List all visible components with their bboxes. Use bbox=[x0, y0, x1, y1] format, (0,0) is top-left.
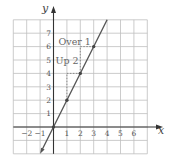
x-tick-label: 5 bbox=[118, 129, 123, 138]
data-point bbox=[52, 125, 55, 128]
data-point bbox=[65, 99, 68, 102]
data-point bbox=[79, 72, 82, 75]
x-axis-label: x bbox=[158, 124, 165, 137]
x-tick-label: 1 bbox=[65, 129, 70, 138]
y-tick-label: 4 bbox=[46, 69, 51, 78]
y-axis-label: y bbox=[41, 2, 49, 15]
x-tick-label: 3 bbox=[91, 129, 96, 138]
x-tick-label: 6 bbox=[132, 129, 137, 138]
y-axis-arrow-icon bbox=[51, 6, 56, 13]
over-1-annotation: Over 1 bbox=[59, 36, 91, 47]
y-tick-label: 3 bbox=[46, 83, 51, 92]
y-tick-label: 1 bbox=[46, 109, 51, 118]
line-arrow-icon bbox=[40, 148, 45, 154]
y-tick-label: 7 bbox=[46, 29, 51, 38]
x-tick-label: 2 bbox=[78, 129, 83, 138]
y-tick-label: 6 bbox=[46, 42, 51, 51]
coordinate-plane-diagram: −2−11234561234567 x y Over 1 Up 2 bbox=[0, 0, 175, 160]
y-tick-label: 5 bbox=[46, 56, 51, 65]
graph-svg: −2−11234561234567 x y Over 1 Up 2 bbox=[0, 0, 175, 160]
x-tick-label: −2 bbox=[21, 129, 32, 138]
y-tick-label: 2 bbox=[46, 96, 51, 105]
x-tick-label: 4 bbox=[105, 129, 110, 138]
up-2-annotation: Up 2 bbox=[56, 55, 79, 66]
x-tick-label: −1 bbox=[35, 129, 46, 138]
data-point bbox=[92, 45, 95, 48]
